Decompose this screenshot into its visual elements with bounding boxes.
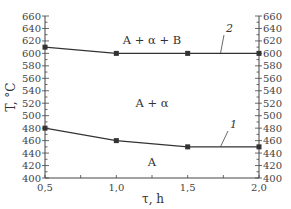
y-axis-title: T, °C: [4, 82, 18, 111]
data-marker: [43, 45, 48, 50]
phase-diagram-chart: 4004004204204404404604604804805005005205…: [0, 0, 291, 209]
y-tick-label-left: 540: [22, 85, 41, 96]
x-axis-title: τ, h: [142, 192, 164, 206]
y-tick-label-left: 500: [22, 110, 41, 121]
y-tick-label-left: 580: [22, 60, 41, 71]
data-marker: [185, 51, 190, 56]
data-marker: [43, 126, 48, 131]
y-tick-label-right: 500: [263, 110, 282, 121]
y-tick-label-left: 620: [22, 35, 41, 46]
series-line-2: [45, 47, 259, 53]
y-tick-label-left: 560: [22, 73, 41, 84]
region-label-top: A + α + B: [122, 33, 181, 47]
curve-number-1: 1: [230, 118, 237, 131]
y-tick-label-right: 480: [263, 123, 282, 134]
x-tick-label: 1,5: [180, 182, 196, 193]
y-tick-label-left: 660: [22, 11, 41, 22]
x-tick-label: 0,5: [37, 182, 53, 193]
y-tick-label-left: 460: [22, 135, 41, 146]
data-marker: [114, 138, 119, 143]
data-marker: [257, 144, 262, 149]
region-label-middle: A + α: [134, 96, 168, 110]
y-tick-label-right: 660: [263, 11, 282, 22]
y-tick-label-left: 420: [22, 160, 41, 171]
y-tick-label-right: 460: [263, 135, 282, 146]
region-label-bottom: A: [147, 155, 157, 169]
y-tick-label-left: 640: [22, 23, 41, 34]
y-tick-label-right: 540: [263, 85, 282, 96]
data-marker: [257, 51, 262, 56]
data-marker: [185, 144, 190, 149]
x-tick-label: 1,0: [108, 182, 124, 193]
y-tick-label-left: 480: [22, 123, 41, 134]
curve-leader-2: [220, 35, 224, 53]
y-tick-label-right: 520: [263, 98, 282, 109]
curve-leader-1: [220, 131, 228, 147]
y-tick-label-right: 420: [263, 160, 282, 171]
y-tick-label-right: 440: [263, 148, 282, 159]
data-marker: [114, 51, 119, 56]
curve-number-2: 2: [225, 22, 233, 35]
y-tick-label-right: 620: [263, 35, 282, 46]
series-line-1: [45, 128, 259, 147]
y-tick-label-left: 520: [22, 98, 41, 109]
y-tick-label-left: 440: [22, 148, 41, 159]
y-tick-label-left: 600: [22, 48, 41, 59]
x-tick-label: 2,0: [251, 182, 267, 193]
y-tick-label-right: 560: [263, 73, 282, 84]
y-tick-label-right: 600: [263, 48, 282, 59]
y-tick-label-right: 580: [263, 60, 282, 71]
y-tick-label-right: 640: [263, 23, 282, 34]
